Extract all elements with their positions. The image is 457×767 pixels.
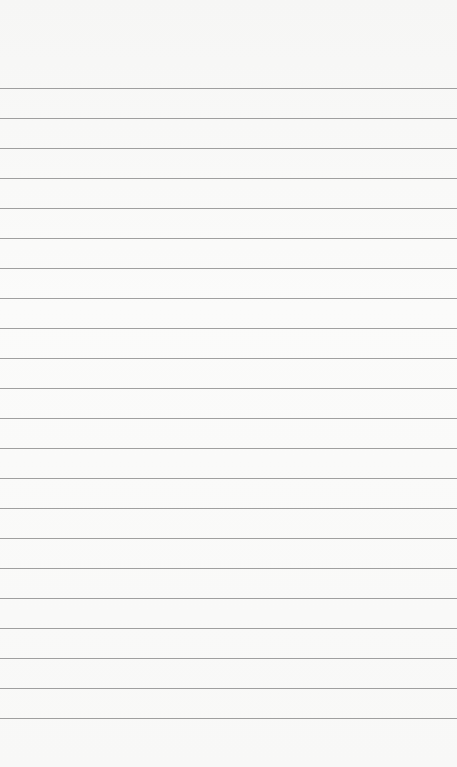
rule-line <box>0 178 457 179</box>
rule-line <box>0 388 457 389</box>
rule-line <box>0 298 457 299</box>
rule-line <box>0 628 457 629</box>
rule-line <box>0 328 457 329</box>
rule-line <box>0 208 457 209</box>
rule-line <box>0 718 457 719</box>
rule-line <box>0 538 457 539</box>
rule-line <box>0 418 457 419</box>
rule-line <box>0 358 457 359</box>
rule-line <box>0 268 457 269</box>
rule-line <box>0 118 457 119</box>
lined-paper <box>0 0 457 767</box>
rule-line <box>0 598 457 599</box>
rule-line <box>0 658 457 659</box>
rule-line <box>0 148 457 149</box>
rule-line <box>0 238 457 239</box>
rule-line <box>0 688 457 689</box>
rule-line <box>0 568 457 569</box>
rule-line <box>0 508 457 509</box>
rule-line <box>0 448 457 449</box>
rule-line <box>0 478 457 479</box>
rule-line <box>0 88 457 89</box>
